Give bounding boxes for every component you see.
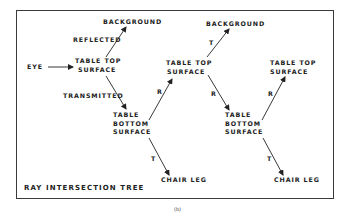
node-label-line: TABLE [113,111,151,120]
node-background-1: BACKGROUND [103,18,162,27]
edge-label-transmitted: TRANSMITTED [63,92,124,101]
arrow-t3 [263,138,283,175]
diagram-title: RAY INTERSECTION TREE [24,184,144,192]
node-table-top-3: TABLE TOP SURFACE [270,59,316,76]
node-table-top-1: TABLE TOP SURFACE [75,57,121,74]
node-chair-leg-2: CHAIR LEG [274,176,320,185]
node-table-bottom-2: TABLE BOTTOM SURFACE [225,111,263,137]
edge-label-t3: T [267,155,271,162]
node-label-line: SURFACE [166,68,212,77]
node-label-line: BOTTOM [113,120,151,129]
node-table-top-2: TABLE TOP SURFACE [166,59,212,76]
node-background-2: BACKGROUND [206,20,265,29]
edge-label-reflected: REFLECTED [73,36,121,45]
arrow-r3 [262,77,285,120]
node-label-line: SURFACE [270,68,316,77]
edge-label-t2: T [209,39,213,46]
node-table-bottom-1: TABLE BOTTOM SURFACE [113,111,151,137]
node-label-line: TABLE TOP [75,57,121,66]
figure-caption: (b) [174,206,181,212]
node-chair-leg-1: CHAIR LEG [161,176,207,185]
edge-label-t1: T [151,155,155,162]
edge-label-r1: R [157,88,162,95]
node-label-line: SURFACE [225,128,263,137]
node-label-line: TABLE TOP [166,59,212,68]
edge-label-r2: R [211,90,216,97]
edge-label-r3: R [268,90,273,97]
node-label-line: BOTTOM [225,120,263,129]
arrow-r1 [149,79,172,120]
node-label-line: TABLE [225,111,263,120]
node-label-line: SURFACE [113,128,151,137]
node-eye: EYE [27,63,43,72]
node-label-line: SURFACE [75,66,121,75]
node-label-line: TABLE TOP [270,59,316,68]
